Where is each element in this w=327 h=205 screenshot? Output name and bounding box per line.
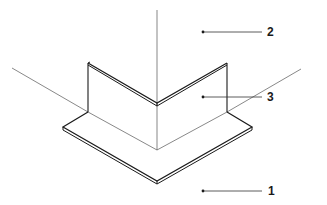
base-plate [63, 112, 252, 184]
callout-1-label: 1 [268, 185, 275, 197]
callout-2-label: 2 [267, 26, 274, 38]
callout-3-label: 3 [267, 91, 274, 103]
corner-profile-diagram [0, 0, 327, 205]
right-axis [157, 112, 227, 150]
axis-lines [12, 10, 301, 150]
leader-lines [203, 32, 262, 191]
leader-dots [202, 31, 205, 193]
left-axis [12, 68, 88, 112]
angled-wall [88, 62, 227, 112]
